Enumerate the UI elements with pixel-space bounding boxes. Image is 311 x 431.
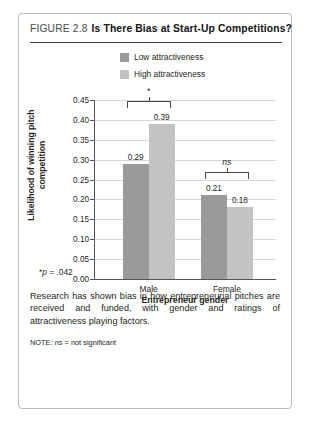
legend-label-low: Low attractiveness: [134, 52, 203, 62]
note-prefix: NOTE:: [30, 338, 55, 347]
figure-title-text: Is There Bias at Start-Up Competitions?: [92, 23, 292, 34]
figure-note: NOTE: ns = not significant: [30, 338, 280, 347]
figure-number: FIGURE 2.8: [30, 23, 88, 34]
gridline: [94, 140, 276, 141]
note-rest: = not significant: [62, 338, 116, 347]
y-tick-label: 0.20: [73, 195, 89, 204]
significance-bracket: *: [127, 101, 171, 108]
figure-title: FIGURE 2.8Is There Bias at Start-Up Comp…: [30, 23, 282, 34]
bar: 0.18: [227, 207, 253, 279]
gridline: [94, 199, 276, 200]
significance-label: ns: [222, 157, 231, 167]
y-axis-title: Likelihood of winning pitch competition: [26, 103, 48, 227]
y-tick-label: 0.15: [73, 215, 89, 224]
bar-value-label: 0.18: [232, 196, 248, 205]
significance-bracket-stem: [227, 168, 228, 173]
y-tick-label: 0.35: [73, 135, 89, 144]
gridline: [94, 160, 276, 161]
bar: 0.29: [123, 164, 149, 279]
plot-area: 0.000.050.100.150.200.250.300.350.400.45…: [94, 100, 276, 280]
y-tick-label: 0.40: [73, 115, 89, 124]
footnote-value: = .042: [47, 267, 73, 277]
y-tick-label: 0.30: [73, 155, 89, 164]
y-tick-label: 0.25: [73, 175, 89, 184]
legend-item-high: High attractiveness: [120, 67, 205, 81]
chart-area: Likelihood of winning pitch competition …: [19, 92, 291, 322]
bar-value-label: 0.21: [206, 184, 222, 193]
gridline: [94, 120, 276, 121]
bar: 0.39: [149, 124, 175, 279]
bar-value-label: 0.39: [154, 113, 170, 122]
gridline: [94, 100, 276, 101]
legend-item-low: Low attractiveness: [120, 50, 205, 64]
gridline: [94, 180, 276, 181]
x-axis-line: [94, 279, 276, 280]
y-tick-label: 0.10: [73, 235, 89, 244]
significance-label: *: [147, 86, 150, 96]
figure-body-text: Research has shown bias in how entrepren…: [30, 290, 280, 327]
bar-value-label: 0.29: [128, 153, 144, 162]
title-divider: [30, 42, 282, 43]
legend-swatch-low: [120, 53, 129, 62]
y-tick-label: 0.00: [73, 275, 89, 284]
y-axis-line: [94, 100, 95, 280]
y-tick-label: 0.45: [73, 96, 89, 105]
y-tick-label: 0.05: [73, 255, 89, 264]
chart-legend: Low attractiveness High attractiveness: [120, 50, 205, 84]
significance-bracket-stem: [149, 97, 150, 102]
legend-label-high: High attractiveness: [134, 69, 205, 79]
footnote-pvalue: *p = .042: [39, 267, 73, 277]
bar: 0.21: [201, 195, 227, 279]
figure-card: FIGURE 2.8Is There Bias at Start-Up Comp…: [18, 13, 292, 409]
significance-bracket: ns: [205, 172, 249, 179]
legend-swatch-high: [120, 70, 129, 79]
